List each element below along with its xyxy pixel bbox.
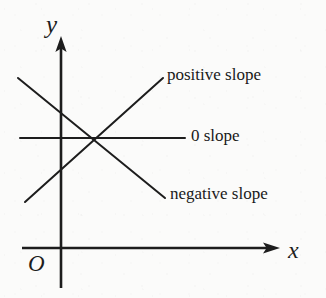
- origin-label: O: [28, 252, 45, 275]
- slope-diagram-figure: y x O positive slope 0 slope negative sl…: [0, 0, 326, 298]
- slope-lines-group: [18, 78, 185, 202]
- y-axis-label: y: [46, 12, 57, 37]
- negative-slope-label: negative slope: [170, 185, 268, 202]
- diagram-canvas: [0, 0, 326, 298]
- positive-slope-label: positive slope: [167, 66, 261, 83]
- zero-slope-label: 0 slope: [191, 127, 240, 144]
- x-axis-label: x: [288, 238, 299, 262]
